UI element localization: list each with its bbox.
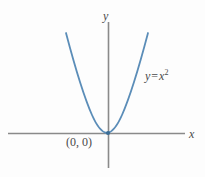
equation-operator: = [150,69,159,83]
equation-exponent: 2 [164,68,168,77]
origin-point-label: (0, 0) [66,136,92,148]
x-axis-label: x [189,128,194,140]
curve-equation-label: y=x2 [145,70,168,82]
parabola-curve [66,33,148,133]
y-axis-label: y [103,10,108,22]
parabola-figure: y x y=x2 (0, 0) [0,0,205,177]
graph-canvas [0,0,205,177]
origin-vertex-dot [106,131,110,135]
